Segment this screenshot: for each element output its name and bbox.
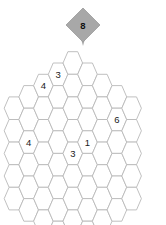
marker-label: 8	[80, 20, 85, 31]
hex-cell[interactable]	[122, 120, 142, 143]
hex-cells-layer	[4, 52, 141, 225]
hex-clue-label: 3	[55, 69, 60, 80]
hex-clue-label: 3	[70, 148, 75, 159]
hex-grid-canvas: 8 436413	[0, 0, 166, 225]
hex-cell[interactable]	[122, 165, 142, 188]
hex-clue-label: 6	[114, 114, 119, 125]
hex-clue-label: 4	[41, 80, 46, 91]
hex-clue-label: 4	[26, 137, 31, 148]
hex-clue-label: 1	[85, 137, 90, 148]
marker-layer: 8	[66, 8, 100, 46]
hex-cell[interactable]	[122, 142, 142, 165]
hex-cell[interactable]	[122, 97, 142, 120]
puzzle-board: 8 436413	[0, 0, 166, 225]
hex-cell[interactable]	[122, 187, 142, 210]
